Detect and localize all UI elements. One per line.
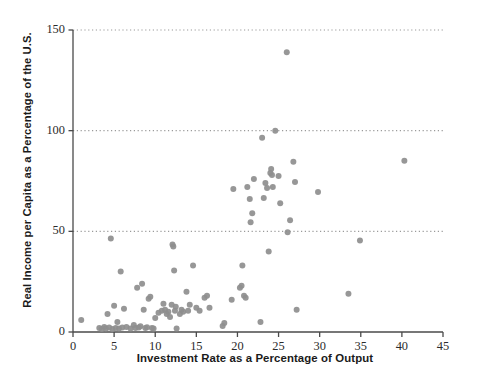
data-point (401, 158, 407, 164)
x-tick-label: 40 (387, 339, 417, 354)
data-point (151, 325, 157, 331)
y-tick-label: 50 (31, 223, 65, 238)
data-point (277, 200, 283, 206)
data-point (141, 307, 147, 313)
data-point (170, 243, 176, 249)
data-point (264, 185, 270, 191)
data-point (239, 283, 245, 289)
data-point (248, 219, 254, 225)
data-point (206, 305, 212, 311)
data-point (105, 311, 111, 317)
data-point (249, 210, 255, 216)
data-point (270, 184, 276, 190)
y-axis-label-container: Real Income per Capita as a Percentage o… (14, 0, 40, 340)
data-point (244, 184, 250, 190)
data-point (171, 268, 177, 274)
y-tick-label: 100 (31, 123, 65, 138)
data-point (152, 315, 158, 321)
x-tick-label: 45 (428, 339, 458, 354)
x-tick-label: 0 (58, 339, 88, 354)
x-tick-label: 25 (264, 339, 294, 354)
data-point (173, 304, 179, 310)
data-point (345, 291, 351, 297)
gridlines-group (73, 30, 443, 231)
data-point (230, 186, 236, 192)
data-point (108, 235, 114, 241)
data-point (118, 269, 124, 275)
plot-canvas (0, 0, 483, 386)
data-point (183, 289, 189, 295)
data-point (266, 248, 272, 254)
data-point (315, 189, 321, 195)
data-point (269, 172, 275, 178)
data-point (197, 308, 203, 314)
x-tick-label: 30 (305, 339, 335, 354)
data-point (78, 317, 84, 323)
x-tick-label: 20 (222, 339, 252, 354)
data-point (221, 320, 227, 326)
data-point (185, 308, 191, 314)
data-point (284, 49, 290, 55)
data-point (261, 195, 267, 201)
data-point (292, 179, 298, 185)
y-tick-label: 0 (31, 324, 65, 339)
data-point (276, 173, 282, 179)
x-tick-label: 15 (181, 339, 211, 354)
data-point (268, 166, 274, 172)
data-point (180, 309, 186, 315)
data-point (147, 294, 153, 300)
data-point (243, 295, 249, 301)
data-point (187, 302, 193, 308)
data-point (294, 307, 300, 313)
data-point (167, 314, 173, 320)
data-point (204, 293, 210, 299)
data-point (114, 319, 120, 325)
x-tick-label: 5 (99, 339, 129, 354)
data-point (160, 301, 166, 307)
data-point (357, 237, 363, 243)
data-points-group (78, 49, 407, 332)
data-point (190, 263, 196, 269)
y-axis-label: Real Income per Capita as a Percentage o… (14, 0, 40, 340)
scatter-plot-figure: Real Income per Capita as a Percentage o… (0, 0, 483, 386)
data-point (121, 306, 127, 312)
data-point (134, 285, 140, 291)
data-point (285, 229, 291, 235)
data-point (111, 303, 117, 309)
data-point (139, 281, 145, 287)
data-point (290, 159, 296, 165)
data-point (272, 128, 278, 134)
x-tick-label: 10 (140, 339, 170, 354)
data-point (247, 196, 253, 202)
data-point (174, 325, 180, 331)
data-point (251, 176, 257, 182)
data-point (257, 319, 263, 325)
x-tick-label: 35 (346, 339, 376, 354)
data-point (229, 297, 235, 303)
data-point (239, 263, 245, 269)
data-point (287, 217, 293, 223)
axes-group (73, 30, 443, 332)
data-point (259, 135, 265, 141)
tick-marks-group (69, 30, 444, 337)
y-tick-label: 150 (31, 22, 65, 37)
